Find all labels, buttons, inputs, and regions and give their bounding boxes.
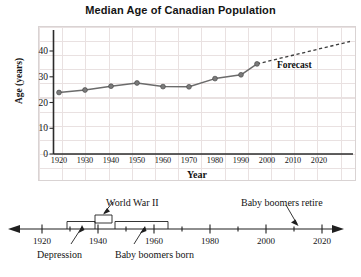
- data-point: [161, 84, 166, 89]
- data-point: [109, 84, 114, 89]
- x-axis-label: Year: [38, 169, 356, 180]
- data-point: [187, 84, 192, 89]
- forecast-annotation-label: Forecast: [277, 60, 312, 70]
- x-tick-label: 1950: [124, 156, 150, 165]
- timeline-event-depression-label: Depression: [37, 249, 82, 260]
- x-tick-label: 2020: [306, 156, 332, 165]
- x-tick-label: 1970: [176, 156, 202, 165]
- x-tick-label: 1980: [202, 156, 228, 165]
- world-war-2-bracket: [95, 215, 112, 223]
- timeline-year-label: 1960: [137, 236, 171, 246]
- data-point: [57, 90, 62, 95]
- y-tick-label: 30: [28, 72, 48, 82]
- x-tick-label: 1940: [98, 156, 124, 165]
- data-point: [135, 81, 140, 86]
- x-tick-label: 1990: [228, 156, 254, 165]
- x-tick-label: 1960: [150, 156, 176, 165]
- timeline-year-label: 2020: [305, 236, 339, 246]
- x-tick-label: 1920: [46, 156, 72, 165]
- timeline-event-world-war-2-label: World War II: [106, 197, 159, 208]
- timeline-event-baby-boomers-retire-label: Baby boomers retire: [241, 197, 323, 208]
- y-tick-label: 40: [28, 46, 48, 56]
- data-point: [83, 88, 88, 93]
- timeline-event-baby-boomers-born-label: Baby boomers born: [115, 249, 194, 260]
- timeline-right-arrow-icon: [332, 225, 344, 233]
- timeline-year-label: 2000: [249, 236, 283, 246]
- y-tick-label: 20: [28, 98, 48, 108]
- figure-root: Median Age of Canadian Population 0 10 2…: [0, 0, 361, 277]
- timeline-left-arrow-icon: [8, 225, 20, 233]
- data-point: [239, 72, 244, 77]
- x-tick-label: 2000: [254, 156, 280, 165]
- timeline-year-label: 1980: [193, 236, 227, 246]
- y-axis-label: Age (years): [14, 46, 24, 116]
- data-point: [255, 62, 260, 67]
- baby-boomers-born-bracket: [115, 222, 168, 230]
- timeline-year-label: 1940: [81, 236, 115, 246]
- y-tick-label: 0: [28, 149, 48, 159]
- timeline-year-label: 1920: [25, 236, 59, 246]
- x-tick-label: 1930: [72, 156, 98, 165]
- x-tick-label: 2010: [280, 156, 306, 165]
- data-point: [213, 76, 218, 81]
- y-tick-label: 10: [28, 123, 48, 133]
- series-line-observed: [59, 64, 257, 93]
